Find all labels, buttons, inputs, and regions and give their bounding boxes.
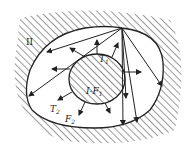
inner-body-F1 bbox=[69, 54, 125, 104]
diagram-svg: II T1 I-F1 T2 F2 bbox=[0, 0, 191, 157]
region-II-label: II bbox=[26, 37, 34, 47]
radiation-enclosure-diagram: II T1 I-F1 T2 F2 bbox=[0, 0, 191, 157]
